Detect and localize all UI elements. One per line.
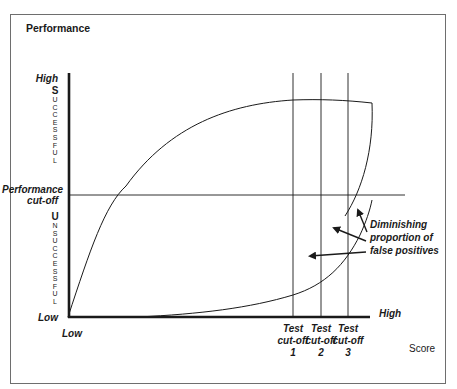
- upper-curve: [68, 100, 372, 317]
- test-cutoff-label-3: Test cut-off 3: [328, 323, 368, 359]
- annotation-line3: false positives: [370, 244, 439, 257]
- annotation-arrow-3: [310, 252, 366, 256]
- annotation-line1: Diminishing: [370, 218, 439, 231]
- lower-curve: [138, 200, 372, 317]
- test-cutoff-label-line1: Test: [328, 323, 368, 335]
- test-cutoff-number: 3: [328, 347, 368, 359]
- test-cutoff-label-line2: cut-off: [328, 335, 368, 347]
- x-axis-low-label: Low: [62, 328, 82, 339]
- x-axis-high-label: High: [379, 308, 401, 319]
- x-axis-title: Score: [409, 343, 435, 354]
- annotation-text: Diminishing proportion of false positive…: [370, 218, 439, 257]
- annotation-line2: proportion of: [370, 231, 439, 244]
- annotation-arrow-2: [334, 228, 366, 241]
